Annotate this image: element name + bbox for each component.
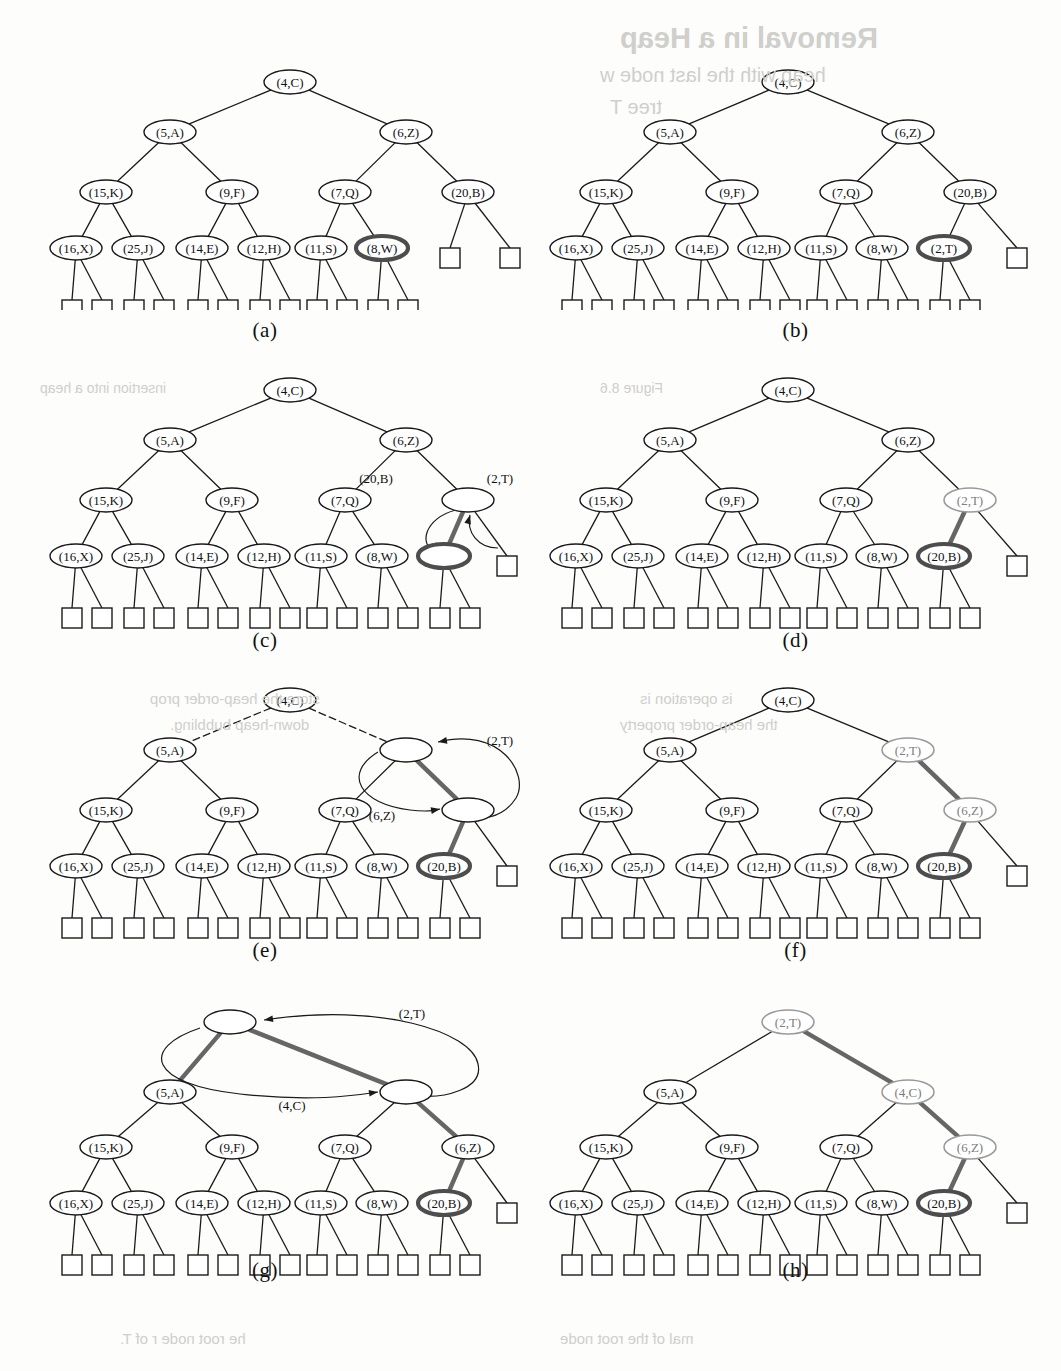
external-node-edge [198, 568, 201, 608]
external-node-edge [260, 260, 263, 300]
external-node-square [337, 918, 357, 938]
node-label: (12,H) [247, 1196, 281, 1211]
tree-edge [326, 512, 340, 544]
node-label: (4,C) [894, 1085, 921, 1100]
node-label: (25,J) [623, 241, 653, 256]
heap-node-2T: (2,T) [762, 1010, 814, 1034]
tree-edge [357, 1103, 394, 1137]
external-node-square [92, 918, 112, 938]
node-label: (20,B) [927, 1196, 961, 1211]
external-node-edge [269, 878, 290, 918]
external-node-edge [826, 260, 847, 300]
heap-node-16X: (16,X) [50, 544, 102, 568]
node-label: (15,K) [89, 185, 123, 200]
external-node-edge [572, 1215, 575, 1255]
external-node-square [898, 608, 918, 628]
heap-node-6Z: (6,Z) [882, 428, 934, 452]
external-node-edge [207, 260, 228, 300]
swap-arrow-path [469, 515, 498, 548]
tree-edge [326, 822, 340, 854]
external-node-edge [643, 260, 664, 300]
external-node-edge [72, 878, 75, 918]
node-label: (12,H) [747, 549, 781, 564]
node-label: (16,X) [559, 549, 593, 564]
heap-node-20B: (20,B) [918, 1191, 970, 1215]
node-label: (14,E) [686, 1196, 719, 1211]
node-label: (7,Q) [832, 1140, 860, 1155]
heap-node-8W: (8,W) [856, 236, 908, 260]
external-node-edge [81, 1215, 102, 1255]
external-node-edge [143, 1215, 164, 1255]
swap-arrow-path [264, 1015, 479, 1097]
external-node-edge [878, 260, 881, 300]
heap-node-12H: (12,H) [738, 854, 790, 878]
external-node-edge [698, 878, 701, 918]
heap-node-15K: (15,K) [80, 798, 132, 822]
external-node-edge [378, 568, 381, 608]
external-node-square [62, 300, 82, 310]
external-node-edge [634, 1215, 637, 1255]
tree-edge [617, 143, 658, 181]
heap-node-15K: (15,K) [580, 798, 632, 822]
node-label: (5,A) [156, 743, 184, 758]
external-node-square [154, 300, 174, 310]
heap-node-5A: (5,A) [144, 120, 196, 144]
heap-node-14E: (14,E) [676, 236, 728, 260]
heap-node-16X: (16,X) [550, 854, 602, 878]
external-node-edge [760, 260, 763, 300]
tree-edge [708, 512, 726, 545]
node-label: (8,W) [867, 549, 898, 564]
swap-label: (2,T) [487, 471, 513, 486]
panel-caption-e: (e) [0, 938, 530, 963]
external-node-square [154, 918, 174, 938]
node-label: (14,E) [686, 549, 719, 564]
external-node-edge [326, 1215, 347, 1255]
tree-edge [189, 90, 270, 124]
heap-node-14E: (14,E) [176, 1191, 228, 1215]
tree-edge [857, 143, 897, 181]
node-label: (16,X) [59, 549, 93, 564]
tree-edge [449, 1159, 463, 1191]
heap-node-8W: (8,W) [356, 236, 408, 260]
external-node-edge [887, 568, 908, 608]
nodes-layer: (4,C)(5,A)(6,Z)(15,K)(9,F)(7,Q)(2,T)(16,… [550, 378, 1027, 628]
external-node-edge [207, 878, 228, 918]
node-label: (8,W) [867, 1196, 898, 1211]
tree-edge [113, 1159, 132, 1192]
external-node-edge [949, 260, 970, 300]
external-node-square [124, 608, 144, 628]
heap-node-9F: (9,F) [706, 798, 758, 822]
heap-node-20B: (20,B) [918, 854, 970, 878]
external-node-square [398, 608, 418, 628]
external-node-edge [81, 878, 102, 918]
swap-annotations-layer: (20,B)(2,T) [359, 471, 513, 553]
node-label: (5,A) [656, 743, 684, 758]
heap-node-11S: (11,S) [295, 544, 347, 568]
node-label: (14,E) [186, 859, 219, 874]
node-label: (9,F) [719, 803, 745, 818]
heap-node-7Q: (7,Q) [820, 798, 872, 822]
node-label: (15,K) [589, 803, 623, 818]
external-node-edge [269, 260, 290, 300]
node-label: (12,H) [747, 241, 781, 256]
heap-node-5A: (5,A) [144, 428, 196, 452]
external-node-square [868, 608, 888, 628]
node-label: (2,T) [895, 743, 921, 758]
tree-edge [417, 451, 457, 489]
heap-node-25J: (25,J) [112, 236, 164, 260]
node-label: (20,B) [427, 859, 461, 874]
external-node-square [1007, 248, 1027, 268]
external-node-edge [634, 568, 637, 608]
tree-edge [949, 512, 964, 545]
tree-edge [919, 143, 959, 181]
node-label: (8,W) [867, 859, 898, 874]
panel-b: (4,C)(5,A)(6,Z)(15,K)(9,F)(7,Q)(20,B)(16… [530, 0, 1061, 360]
node-label: (25,J) [123, 859, 153, 874]
heap-node-14E: (14,E) [176, 544, 228, 568]
swap-label: (6,Z) [369, 808, 395, 823]
node-label: (12,H) [747, 1196, 781, 1211]
heap-node-8W: (8,W) [356, 854, 408, 878]
heap-node-8W: (8,W) [856, 854, 908, 878]
node-label: (11,S) [805, 859, 837, 874]
external-node-edge [707, 1215, 728, 1255]
